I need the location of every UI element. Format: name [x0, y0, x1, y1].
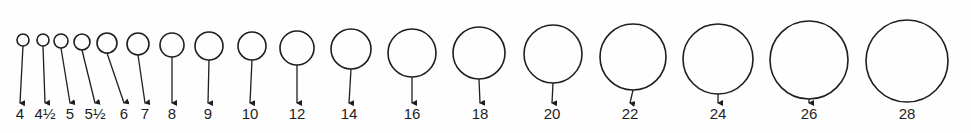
ring-size-item	[97, 33, 124, 103]
size-label: 16	[404, 106, 421, 121]
ring-size-item	[74, 34, 95, 103]
ring-circle-icon	[74, 34, 90, 50]
ring-circle-icon	[388, 29, 436, 77]
size-label: 4½	[35, 106, 56, 121]
ring-circle-icon	[195, 32, 223, 60]
ring-size-item	[770, 21, 848, 103]
ring-circle-icon	[770, 21, 848, 99]
size-label: 8	[168, 106, 176, 121]
rings-group	[17, 20, 948, 103]
pointer-arrow-icon	[630, 90, 633, 103]
ring-size-item	[127, 33, 149, 103]
size-label: 22	[622, 106, 639, 121]
ring-circle-icon	[453, 27, 505, 79]
pointer-arrow-icon	[479, 79, 480, 103]
ring-size-item	[280, 31, 314, 103]
size-label: 10	[242, 106, 259, 121]
size-label: 28	[899, 106, 916, 121]
ring-size-item	[331, 29, 371, 103]
ring-size-diagram: 44½55½678910121416182022242628	[0, 0, 971, 133]
ring-circle-icon	[331, 29, 371, 69]
pointer-arrow-icon	[208, 60, 209, 103]
pointer-arrow-icon	[250, 60, 252, 103]
ring-size-item	[524, 25, 582, 103]
ring-size-item	[238, 32, 266, 103]
size-label: 7	[141, 106, 149, 121]
ring-circle-icon	[600, 24, 666, 90]
ring-size-item	[37, 34, 49, 103]
ring-circle-icon	[683, 24, 753, 94]
pointer-arrow-icon	[61, 48, 70, 103]
ring-circle-icon	[97, 33, 117, 53]
ring-size-item	[600, 24, 666, 103]
ring-circle-icon	[866, 20, 948, 102]
ring-circle-icon	[238, 32, 266, 60]
size-label: 14	[341, 106, 358, 121]
size-label: 18	[472, 106, 489, 121]
ring-size-item	[683, 24, 753, 103]
ring-circle-icon	[280, 31, 314, 65]
size-label: 20	[544, 106, 561, 121]
pointer-arrow-icon	[43, 46, 45, 103]
pointer-arrow-icon	[82, 50, 95, 103]
ring-size-item	[195, 32, 223, 103]
ring-size-item	[866, 20, 948, 102]
size-label: 6	[120, 106, 128, 121]
pointer-arrow-icon	[138, 55, 145, 103]
ring-circle-icon	[37, 34, 49, 46]
pointer-arrow-icon	[349, 69, 351, 103]
size-label: 9	[204, 106, 212, 121]
size-label: 24	[710, 106, 727, 121]
ring-size-item	[388, 29, 436, 103]
ring-circle-icon	[127, 33, 149, 55]
size-label: 5	[66, 106, 74, 121]
ring-circle-icon	[54, 34, 68, 48]
ring-circle-icon	[17, 34, 29, 46]
size-label: 4	[16, 106, 24, 121]
ring-size-item	[160, 33, 184, 103]
ring-size-item	[453, 27, 505, 103]
pointer-arrow-icon	[107, 53, 124, 103]
pointer-arrow-icon	[20, 46, 23, 103]
size-label: 5½	[85, 106, 106, 121]
size-label: 26	[801, 106, 818, 121]
ring-circle-icon	[524, 25, 582, 83]
ring-circle-icon	[160, 33, 184, 57]
ring-size-item	[17, 34, 29, 103]
ring-size-item	[54, 34, 70, 103]
size-label: 12	[289, 106, 306, 121]
pointer-arrow-icon	[552, 83, 553, 103]
